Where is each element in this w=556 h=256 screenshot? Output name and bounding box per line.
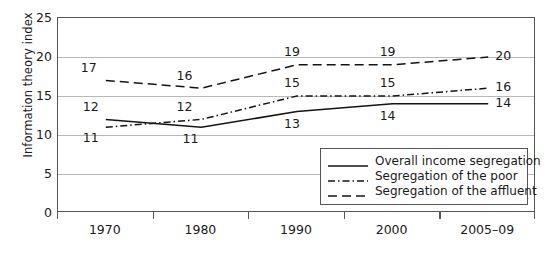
data-point-label: 16 xyxy=(176,68,192,83)
data-point-label: 15 xyxy=(284,75,300,90)
chart-legend: Overall income segregationSegregation of… xyxy=(320,148,528,205)
data-point-label: 16 xyxy=(495,79,511,94)
y-tick-label: 25 xyxy=(22,10,52,25)
y-axis-tick-labels: 2520151050 xyxy=(22,0,52,256)
x-tick-label: 2005–09 xyxy=(460,222,514,237)
data-point-label: 20 xyxy=(495,48,511,63)
legend-label: Segregation of the affluent xyxy=(375,184,537,198)
legend-item: Segregation of the affluent xyxy=(328,184,520,198)
data-point-label: 14 xyxy=(495,94,511,109)
x-tick-label: 1970 xyxy=(89,222,121,237)
data-point-label: 17 xyxy=(81,60,97,75)
x-tick xyxy=(248,212,249,219)
x-axis-tick-labels: 19701980199020002005–09 xyxy=(0,222,556,242)
x-tick xyxy=(534,212,535,219)
data-point-label: 14 xyxy=(380,107,396,122)
data-point-label: 19 xyxy=(284,43,300,58)
y-tick-label: 5 xyxy=(22,166,52,181)
x-tick xyxy=(439,212,440,219)
data-point-label: 12 xyxy=(83,99,99,114)
data-point-label: 13 xyxy=(284,115,300,130)
legend-item: Overall income segregation xyxy=(328,154,520,168)
x-tick xyxy=(57,212,58,219)
legend-line-swatch xyxy=(328,186,368,196)
legend-item: Segregation of the poor xyxy=(328,169,520,183)
x-tick xyxy=(153,212,154,219)
x-tick xyxy=(344,212,345,219)
data-point-label: 12 xyxy=(176,99,192,114)
x-tick-label: 2000 xyxy=(376,222,408,237)
legend-line-swatch xyxy=(328,156,368,166)
data-point-label: 15 xyxy=(380,75,396,90)
x-tick-label: 1980 xyxy=(184,222,216,237)
y-tick-label: 10 xyxy=(22,127,52,142)
y-tick-label: 15 xyxy=(22,88,52,103)
legend-label: Segregation of the poor xyxy=(375,169,518,183)
x-tick-label: 1990 xyxy=(280,222,312,237)
x-axis-ticks xyxy=(57,212,535,219)
chart-figure: Information theory index 2520151050 1970… xyxy=(0,0,556,256)
legend-label: Overall income segregation xyxy=(375,154,541,168)
legend-line-swatch xyxy=(328,171,368,181)
y-tick-label: 0 xyxy=(22,205,52,220)
data-point-label: 11 xyxy=(83,130,99,145)
y-tick-label: 20 xyxy=(22,49,52,64)
data-point-label: 11 xyxy=(182,131,198,146)
data-point-label: 19 xyxy=(380,43,396,58)
